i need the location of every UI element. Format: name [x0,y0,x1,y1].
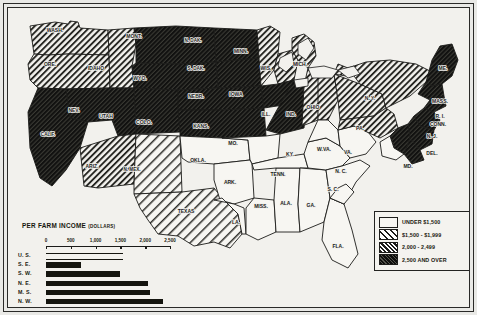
state-label-wyo: WYO. [133,75,147,81]
axis-tick-label: 1,500 [115,238,127,243]
state-label-va: VA. [344,149,353,155]
state-label-ky: KY. [286,151,294,157]
legend-label: UNDER $1,500 [402,219,440,225]
chart-bar-label: S. W. [18,270,42,276]
per-farm-income-bar-chart: PER FARM INCOME (DOLLARS) 05001,0001,500… [16,222,184,307]
chart-bar [46,299,163,304]
state-label-tenn: TENN. [271,171,287,177]
chart-bar-label: U. S. [18,252,42,258]
axis-tick [145,246,146,249]
state-label-wis: WIS. [261,65,272,71]
axis-tick-label: 2,500 [164,238,176,243]
legend-row: 2,500 AND OVER [379,254,469,265]
map-plate: WASH.ORE.IDAHOMONT.N. DAK.S. DAK.MINN.WI… [8,8,469,307]
state-label-sc: S. C. [327,186,339,192]
legend-row: 2,000 - 2,499 [379,242,469,253]
state-label-ind: IND. [286,111,297,117]
state-label-minn: MINN. [234,48,249,54]
chart-bar [46,271,120,276]
state-label-ga: GA. [307,202,317,208]
state-label-del: DEL. [426,150,438,156]
state-label-utah: UTAH [99,113,113,119]
state-label-me: ME. [439,65,449,71]
legend-swatch-1500-1999 [379,229,398,240]
state-label-ariz: ARIZ. [85,163,99,169]
chart-x-axis: 05001,0001,5002,0002,500 [46,238,170,248]
chart-bar [46,253,123,260]
legend-row: UNDER $1,500 [379,217,469,228]
legend-swatch-2000-2499 [379,242,398,253]
axis-tick-label: 2,000 [139,238,151,243]
chart-bar-label: S. E. [18,261,42,267]
state-label-ndak: N. DAK. [184,38,201,43]
chart-title: PER FARM INCOME (DOLLARS) [22,222,115,229]
state-label-md: MD. [403,163,413,169]
legend-label: 2,000 - 2,499 [402,244,435,250]
axis-tick [96,246,97,249]
chart-bar-row: N. W. [16,298,184,306]
axis-tick-label: 1,000 [90,238,102,243]
axis-tick [120,246,121,249]
chart-bar-label: N. E. [18,280,42,286]
chart-bar-row: S. W. [16,270,184,278]
state-label-calif: CALIF. [41,132,55,137]
state-label-la: LA. [232,219,241,225]
state-label-mass: MASS. [432,98,448,104]
state-label-wash: WASH. [47,27,64,33]
state-label-fla: FLA. [332,243,344,249]
state-label-nj: N. J. [427,133,438,139]
map-legend: UNDER $1,500 $1,500 - $1,999 2,000 - 2,4… [374,211,469,271]
state-label-kans: KANS. [193,123,209,129]
state-label-texas: TEXAS [178,208,195,214]
map-plate-root: WASH.ORE.IDAHOMONT.N. DAK.S. DAK.MINN.WI… [0,0,477,315]
chart-bar [46,281,148,286]
state-label-nev: NEV. [68,107,80,113]
state-label-okla: OKLA. [190,157,206,163]
state-label-pa: PA. [356,125,365,131]
chart-bar-row: N. E. [16,280,184,288]
state-label-ny: N. Y. [365,95,376,101]
state-label-colo: COLO. [136,119,152,125]
state-label-wva: W.VA. [317,146,331,152]
chart-bar-row: U. S. [16,252,184,260]
chart-bar-label: M. S. [18,289,42,295]
state-label-ri: R. I. [435,113,445,119]
state-label-iowa: IOWA [229,91,243,97]
legend-row: $1,500 - $1,999 [379,229,469,240]
chart-bar [46,262,81,267]
state-label-ohio: OHIO [307,104,320,110]
state-label-ala: ALA. [280,200,292,206]
state-label-nmex: N. MEX. [123,167,140,172]
state-label-conn: CONN. [430,121,447,127]
axis-tick-label: 0 [45,238,48,243]
state-label-ark: ARK. [224,179,237,185]
axis-tick [46,246,47,249]
state-label-nc: N. C. [335,168,347,174]
state-label-nebr: NEBR. [188,93,204,99]
chart-bar [46,290,150,295]
legend-swatch-2500-and-over [379,254,398,265]
chart-bar-row: M. S. [16,289,184,297]
state-label-mont: MONT. [126,33,142,39]
state-label-miss: MISS. [254,203,268,209]
axis-tick [170,246,171,249]
chart-title-unit: (DOLLARS) [88,224,115,229]
state-label-ore: ORE. [44,61,57,67]
legend-label: 2,500 AND OVER [402,257,447,263]
state-label-mo: MO. [228,140,238,146]
chart-bar-row: S. E. [16,261,184,269]
chart-bar-label: N. W. [18,298,42,304]
axis-tick [71,246,72,249]
state-label-mich: MICH. [293,61,308,67]
legend-label: $1,500 - $1,999 [402,232,441,238]
chart-title-text: PER FARM INCOME [22,222,86,229]
state-label-idaho: IDAHO [88,65,104,71]
state-label-ill: ILL. [262,111,271,117]
legend-swatch-under-1500 [379,217,398,228]
axis-line [46,246,170,247]
state-label-sdak: S. DAK. [188,66,205,71]
axis-tick-label: 500 [67,238,75,243]
